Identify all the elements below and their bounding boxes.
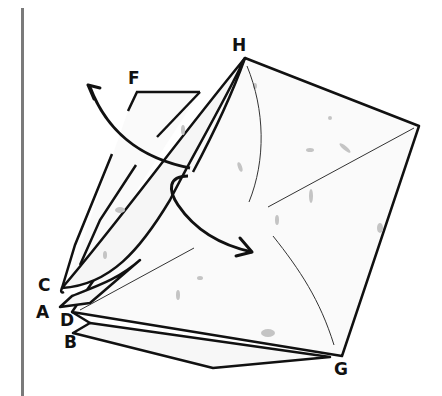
label-a: A [36,304,49,321]
label-f: F [128,70,140,87]
label-d: D [60,312,74,329]
label-c: C [38,277,50,294]
label-g: G [334,361,348,378]
label-b: B [64,334,77,351]
label-h: H [232,37,246,54]
origami-diagram: H F C A D B G [0,0,442,396]
